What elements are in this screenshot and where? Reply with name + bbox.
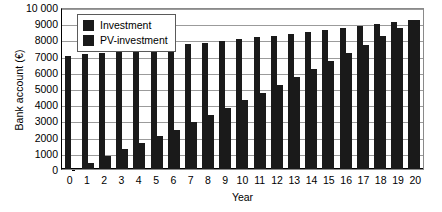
bar-pv-investment [208,115,214,169]
x-axis-tick-label: 16 [338,173,355,189]
x-axis-tick-label: 15 [320,173,337,189]
bar-pv-investment [225,108,231,169]
x-axis-tick-label: 6 [165,173,182,189]
bar-pv-investment [397,28,403,169]
bar-group [371,9,388,169]
x-axis-tick-labels: 01234567891011121314151617181920 [61,173,424,189]
bar-group [234,9,251,169]
x-axis-tick-label: 14 [303,173,320,189]
bar-group [268,9,285,169]
legend-item-label: PV-investment [100,35,168,46]
bar-group [389,9,406,169]
legend-swatch-icon [83,35,94,46]
bar-pv-investment [380,36,386,169]
y-axis-tick-mark [72,170,75,171]
bar-pv-investment [242,100,248,169]
bar-pv-investment [105,156,111,169]
bar-investment [65,56,71,169]
x-axis-tick-label: 19 [389,173,406,189]
bar-group [217,9,234,169]
bar-pv-investment [88,163,94,169]
y-axis-tick-label: 6000 [14,68,58,78]
x-axis-tick-label: 13 [286,173,303,189]
bar-group [320,9,337,169]
x-axis-tick-label: 7 [182,173,199,189]
legend-item: PV-investment [83,33,168,48]
x-axis-tick-label: 2 [96,173,113,189]
y-axis-tick-label: 5000 [14,84,58,94]
bar-group [285,9,302,169]
bar-investment [99,53,105,169]
x-axis-tick-label: 4 [130,173,147,189]
bar-pv-investment [328,61,334,169]
bar-pv-investment [346,53,352,169]
bar-pv-investment [122,149,128,169]
y-axis-tick-label: 2000 [14,133,58,143]
bar-group [251,9,268,169]
bar-pv-investment [191,122,197,169]
y-axis-tick-label: 10 000 [14,3,58,13]
bar-group [182,9,199,169]
y-axis-tick-label: 0 [14,165,58,175]
bar-pv-investment [157,136,163,169]
x-axis-tick-label: 11 [251,173,268,189]
x-axis-title: Year [61,191,424,203]
bar-pv-investment [277,85,283,169]
y-axis-tick-label: 9000 [14,19,58,29]
x-axis-tick-label: 12 [268,173,285,189]
x-axis-tick-label: 9 [217,173,234,189]
x-axis-tick-label: 8 [199,173,216,189]
bar-group [200,9,217,169]
x-axis-tick-label: 0 [61,173,78,189]
x-axis-tick-label: 18 [372,173,389,189]
x-axis-tick-label: 5 [147,173,164,189]
bar-pv-investment [414,20,420,169]
bar-group [354,9,371,169]
bar-group [337,9,354,169]
bar-pv-investment [260,93,266,169]
legend-item: Investment [83,18,168,33]
bar-pv-investment [311,69,317,169]
chart-legend: Investment PV-investment [77,14,176,52]
bar-investment [82,54,88,169]
y-axis-tick-label: 4000 [14,100,58,110]
bar-pv-investment [294,77,300,169]
bar-group [406,9,423,169]
legend-swatch-icon [83,20,94,31]
bar-pv-investment [139,143,145,169]
bar-pv-investment [174,130,180,169]
y-axis-tick-label: 7000 [14,52,58,62]
x-axis-tick-label: 3 [113,173,130,189]
x-axis-tick-label: 10 [234,173,251,189]
y-axis-tick-label: 8000 [14,35,58,45]
bar-pv-investment [363,45,369,169]
legend-item-label: Investment [100,20,151,31]
y-axis-tick-labels: 10 0009000800070006000500040003000200010… [14,8,58,170]
bar-group [303,9,320,169]
y-axis-tick-label: 3000 [14,116,58,126]
y-axis-tick-label: 1000 [14,149,58,159]
bar-chart: Bank account (€) 10 00090008000700060005… [0,0,442,212]
x-axis-tick-label: 1 [78,173,95,189]
x-axis-tick-label: 20 [407,173,424,189]
x-axis-tick-label: 17 [355,173,372,189]
